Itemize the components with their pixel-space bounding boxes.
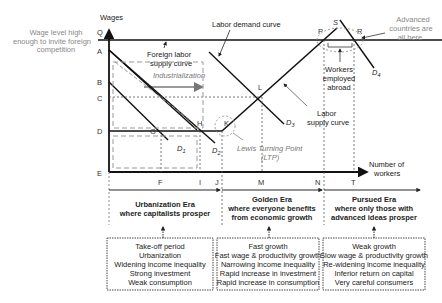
svg-text:Inferior return on capital: Inferior return on capital bbox=[334, 269, 414, 278]
wage-level-annotation: Wage level high enough to invite foreign… bbox=[13, 28, 91, 54]
point-k: K bbox=[224, 119, 229, 128]
traits-pursued: Weak growth Slow wage & productivity gro… bbox=[320, 242, 428, 287]
labor-demand-curve-label: Labor demand curve bbox=[212, 20, 281, 29]
workers-bracket bbox=[328, 43, 352, 47]
svg-text:Rapid increase in investment: Rapid increase in investment bbox=[220, 269, 317, 278]
svg-text:Widening income inequality: Widening income inequality bbox=[114, 260, 206, 269]
svg-text:Rapid increase in consumption: Rapid increase in consumption bbox=[217, 278, 320, 287]
svg-text:competition: competition bbox=[37, 45, 75, 54]
svg-text:Re-widening income inequality: Re-widening income inequality bbox=[323, 260, 425, 269]
x-axis-label: Number of bbox=[369, 160, 405, 169]
point-p: P bbox=[318, 27, 323, 36]
point-f: F bbox=[158, 178, 163, 187]
point-t: T bbox=[351, 178, 356, 187]
ltp-label: Lewis Turning Point bbox=[237, 144, 303, 153]
svg-text:Pursued Era: Pursued Era bbox=[352, 195, 397, 204]
svg-text:Golden Era: Golden Era bbox=[252, 195, 293, 204]
svg-text:employed: employed bbox=[323, 74, 356, 83]
point-l: L bbox=[258, 83, 262, 92]
traits-urbanization: Take-off period Urbanization Widening in… bbox=[114, 242, 206, 287]
industrialization-label: Industrialization bbox=[153, 71, 205, 80]
curve-label-d4: D4 bbox=[372, 68, 380, 78]
svg-text:abroad: abroad bbox=[327, 83, 350, 92]
svg-text:Strong investment: Strong investment bbox=[130, 269, 191, 278]
curve-label-d3: D3 bbox=[286, 118, 295, 128]
curve-label-d2: D2 bbox=[212, 146, 220, 156]
svg-text:(LTP): (LTP) bbox=[261, 153, 280, 162]
svg-text:Weak consumption: Weak consumption bbox=[128, 278, 192, 287]
svg-text:countries are: countries are bbox=[389, 24, 432, 33]
point-s: S bbox=[333, 18, 338, 27]
traits-golden: Fast growth Fast wage & productivity gro… bbox=[215, 242, 321, 287]
advanced-countries-label: Advanced bbox=[396, 15, 429, 24]
curve-label-d1: D1 bbox=[177, 144, 185, 154]
svg-text:where only those with: where only those with bbox=[334, 204, 414, 213]
point-c: C bbox=[97, 94, 103, 103]
point-m: M bbox=[258, 178, 264, 187]
point-h: H bbox=[197, 119, 202, 128]
svg-text:where everyone benefits: where everyone benefits bbox=[227, 204, 316, 213]
svg-text:all here: all here bbox=[398, 33, 423, 42]
lewis-turning-point-diagram: Wages Number of workers Q A B C D E Wage… bbox=[0, 0, 442, 303]
point-r: R bbox=[357, 27, 363, 36]
foreign-labor-supply-label: Foreign labor bbox=[147, 50, 192, 59]
svg-text:Wage level high: Wage level high bbox=[29, 28, 82, 37]
demand-curve-d3 bbox=[209, 52, 284, 124]
svg-text:Fast growth: Fast growth bbox=[248, 242, 287, 251]
point-q: Q bbox=[97, 28, 103, 37]
workers-abroad-label: Workers bbox=[325, 65, 353, 74]
point-d: D bbox=[97, 127, 103, 136]
era-title-urbanization: Urbanization Era where capitalists prosp… bbox=[119, 200, 211, 218]
svg-text:where capitalists prosper: where capitalists prosper bbox=[119, 209, 211, 218]
svg-text:Slow wage & productivity growt: Slow wage & productivity growth bbox=[320, 251, 428, 260]
svg-text:Very careful consumers: Very careful consumers bbox=[335, 278, 414, 287]
point-n: N bbox=[315, 178, 320, 187]
svg-text:workers: workers bbox=[373, 169, 401, 178]
point-e: E bbox=[97, 169, 102, 178]
labor-supply-label: Labor bbox=[317, 109, 337, 118]
svg-text:Narrowing income inequality: Narrowing income inequality bbox=[221, 260, 315, 269]
point-j: J bbox=[215, 178, 219, 187]
point-i: I bbox=[199, 178, 201, 187]
x-axis: Number of workers bbox=[109, 160, 405, 178]
point-g: G bbox=[150, 127, 156, 136]
svg-text:Weak growth: Weak growth bbox=[352, 242, 396, 251]
era-title-pursued: Pursued Era where only those with advanc… bbox=[331, 195, 417, 222]
svg-text:from economic growth: from economic growth bbox=[232, 213, 313, 222]
svg-text:supply curve: supply curve bbox=[307, 118, 349, 127]
svg-text:Fast wage & productivity growt: Fast wage & productivity growth bbox=[215, 251, 321, 260]
svg-text:supply curve: supply curve bbox=[150, 59, 192, 68]
svg-text:Urbanization: Urbanization bbox=[139, 251, 181, 260]
era-title-golden: Golden Era where everyone benefits from … bbox=[227, 195, 316, 222]
point-b: B bbox=[97, 78, 102, 87]
svg-text:Take-off period: Take-off period bbox=[135, 242, 184, 251]
svg-text:Urbanization Era: Urbanization Era bbox=[135, 200, 195, 209]
point-a: A bbox=[97, 47, 102, 56]
y-axis-label: Wages bbox=[100, 13, 123, 22]
svg-text:advanced ideas prosper: advanced ideas prosper bbox=[331, 213, 417, 222]
